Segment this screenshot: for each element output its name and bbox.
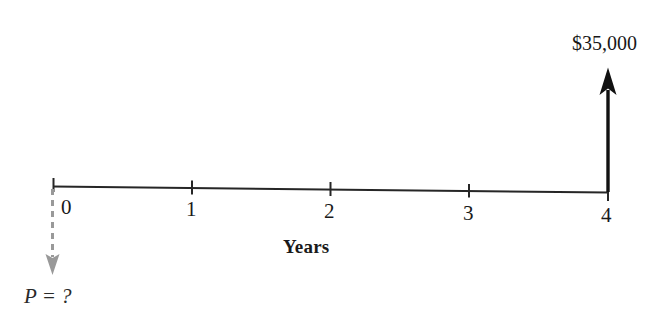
diagram-canvas xyxy=(0,0,671,331)
outflow-arrow-head xyxy=(46,254,60,275)
outflow-present-value-label: P = ? xyxy=(24,286,72,307)
cash-flow-diagram: 0 1 2 3 4 Years $35,000 P = ? xyxy=(0,0,671,331)
year-label-3: 3 xyxy=(463,203,474,224)
inflow-amount-label: $35,000 xyxy=(572,33,637,53)
year-label-4: 4 xyxy=(601,205,612,226)
year-label-2: 2 xyxy=(324,201,335,222)
year-label-1: 1 xyxy=(186,199,197,220)
axis-caption-years: Years xyxy=(283,237,329,256)
year-label-0: 0 xyxy=(61,197,72,218)
